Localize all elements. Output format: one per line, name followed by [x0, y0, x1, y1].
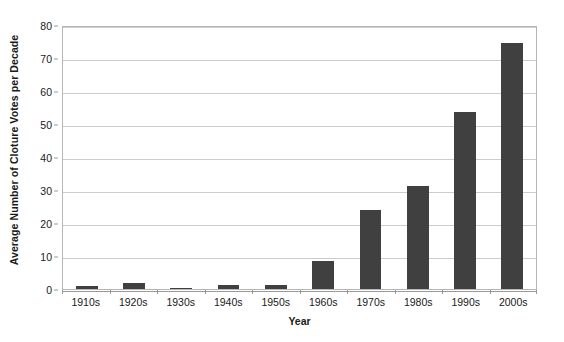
y-axis-tick-mark — [54, 191, 58, 192]
x-axis-tick-mark — [300, 290, 301, 294]
x-axis-tick-mark — [442, 290, 443, 294]
y-axis-tick-label: 10 — [40, 251, 52, 263]
y-axis-tick-label: 70 — [40, 53, 52, 65]
x-axis-title: Year — [62, 315, 537, 327]
bar[interactable] — [123, 283, 145, 289]
y-axis-tick-label: 80 — [40, 20, 52, 32]
bar[interactable] — [407, 186, 429, 289]
y-axis-tick-label: 30 — [40, 185, 52, 197]
bar-slot — [347, 27, 394, 289]
x-axis-tick-labels: 1910s1920s1930s1940s1950s1960s1970s1980s… — [62, 296, 537, 312]
x-axis-tick-mark — [62, 290, 63, 294]
y-axis-tick-mark — [54, 257, 58, 258]
bar-slot — [299, 27, 346, 289]
x-axis-tick-mark — [347, 290, 348, 294]
bar[interactable] — [265, 285, 287, 289]
bar[interactable] — [76, 286, 98, 289]
y-axis-tick-mark — [54, 125, 58, 126]
x-axis-tick-cell — [442, 290, 490, 295]
x-axis-tick-cell — [300, 290, 348, 295]
y-axis-tick-mark — [54, 290, 58, 291]
bars-layer — [63, 27, 536, 289]
bar-slot — [489, 27, 536, 289]
y-axis-tick-label: 40 — [40, 152, 52, 164]
bar-slot — [158, 27, 205, 289]
y-axis-tick-mark — [54, 92, 58, 93]
bar-slot — [252, 27, 299, 289]
x-axis-tick-label: 1940s — [205, 296, 253, 312]
y-axis-title: Average Number of Cloture Votes per Deca… — [0, 0, 28, 300]
bar[interactable] — [501, 43, 523, 290]
bar[interactable] — [312, 261, 334, 289]
bar[interactable] — [454, 112, 476, 289]
x-axis-tick-label: 1930s — [157, 296, 205, 312]
x-axis-tick-cell — [395, 290, 443, 295]
y-axis-tick-labels: 01020304050607080 — [28, 26, 58, 290]
x-axis-tick-cell — [157, 290, 205, 295]
y-axis-tick-mark — [54, 158, 58, 159]
bar-slot — [394, 27, 441, 289]
y-axis-tick-label: 50 — [40, 119, 52, 131]
x-axis-tick-mark — [157, 290, 158, 294]
bar-slot — [441, 27, 488, 289]
bar-slot — [110, 27, 157, 289]
bar-slot — [205, 27, 252, 289]
bar-slot — [63, 27, 110, 289]
bar[interactable] — [360, 210, 382, 289]
x-axis-tick-cell — [490, 290, 538, 295]
bar[interactable] — [170, 288, 192, 289]
y-axis-tick-mark — [54, 59, 58, 60]
y-axis-tick-mark — [54, 224, 58, 225]
y-axis-title-text: Average Number of Cloture Votes per Deca… — [8, 35, 20, 266]
x-axis-tick-label: 1990s — [442, 296, 490, 312]
x-axis-tick-label: 1920s — [110, 296, 158, 312]
x-axis-tick-marks — [62, 290, 537, 295]
x-axis-tick-cell — [110, 290, 158, 295]
x-axis-tick-label: 1950s — [252, 296, 300, 312]
x-axis-tick-label: 1970s — [347, 296, 395, 312]
x-axis-tick-label: 2000s — [490, 296, 538, 312]
x-axis-tick-mark — [252, 290, 253, 294]
y-axis-tick-label: 0 — [46, 284, 52, 296]
x-axis-tick-mark — [205, 290, 206, 294]
bar-chart-figure: Average Number of Cloture Votes per Deca… — [0, 0, 564, 342]
plot-area — [62, 26, 537, 290]
x-axis-tick-mark — [536, 290, 537, 294]
x-axis-tick-cell — [252, 290, 300, 295]
x-axis-tick-cell — [62, 290, 110, 295]
x-axis-tick-cell — [347, 290, 395, 295]
x-axis-tick-label: 1910s — [62, 296, 110, 312]
x-axis-tick-cell — [205, 290, 253, 295]
y-axis-tick-label: 60 — [40, 86, 52, 98]
x-axis-tick-mark — [395, 290, 396, 294]
y-axis-tick-label: 20 — [40, 218, 52, 230]
y-axis-tick-mark — [54, 26, 58, 27]
bar[interactable] — [218, 285, 240, 289]
x-axis-tick-mark — [110, 290, 111, 294]
x-axis-tick-label: 1980s — [395, 296, 443, 312]
x-axis-tick-label: 1960s — [300, 296, 348, 312]
x-axis-tick-mark — [490, 290, 491, 294]
